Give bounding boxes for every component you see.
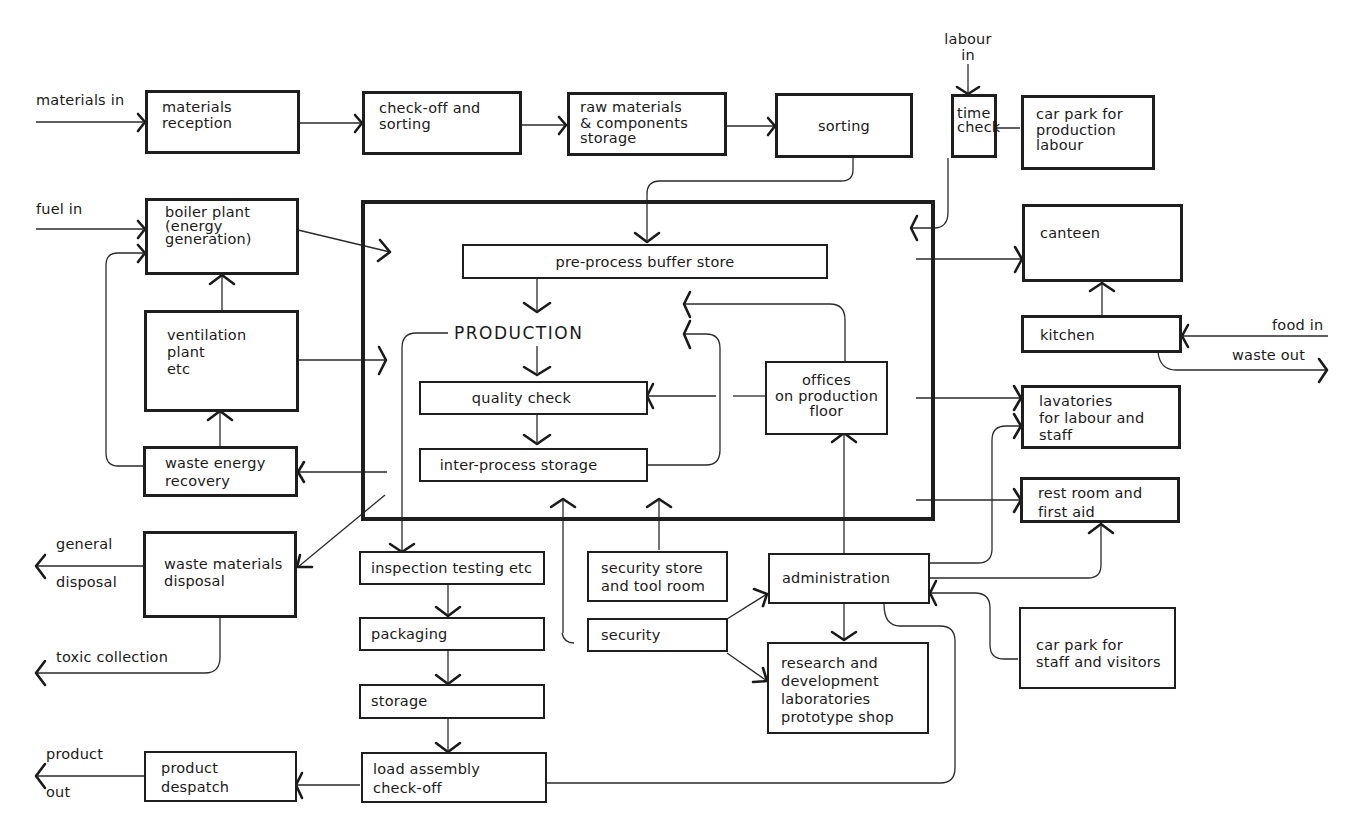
out-label: out bbox=[46, 785, 70, 801]
offices-production-floor-box: offices on production floor bbox=[765, 361, 888, 435]
packaging-box: packaging bbox=[359, 617, 545, 651]
toxic-collection-label: toxic collection bbox=[56, 650, 168, 666]
materials-in-label: materials in bbox=[36, 93, 124, 109]
waste-energy-recovery-box: waste energy recovery bbox=[143, 446, 298, 497]
fuel-in-label: fuel in bbox=[36, 202, 82, 218]
canteen-box: canteen bbox=[1022, 204, 1183, 282]
security-store-box: security store and tool room bbox=[587, 551, 728, 602]
pre-process-buffer-box: pre-process buffer store bbox=[462, 244, 828, 279]
storage-box: storage bbox=[359, 684, 545, 719]
inspection-testing-box: inspection testing etc bbox=[359, 551, 545, 585]
load-assembly-box: load assembly check-off bbox=[361, 752, 547, 803]
inter-process-storage-box: inter-process storage bbox=[419, 448, 648, 482]
raw-materials-storage-box: raw materials & components storage bbox=[567, 92, 727, 156]
product-label: product bbox=[46, 747, 103, 763]
research-development-box: research and development laboratories pr… bbox=[767, 642, 929, 734]
disposal-label: disposal bbox=[56, 575, 117, 591]
administration-box: administration bbox=[768, 553, 930, 604]
sorting-box: sorting bbox=[775, 93, 913, 158]
waste-materials-disposal-box: waste materials disposal bbox=[143, 531, 297, 618]
kitchen-box: kitchen bbox=[1021, 315, 1182, 353]
check-off-sorting-box: check-off and sorting bbox=[362, 91, 522, 155]
car-park-production-box: car park for production labour bbox=[1021, 95, 1155, 170]
factory-flow-diagram: materials in fuel in labour in food in w… bbox=[0, 0, 1360, 834]
time-check-box: time check bbox=[951, 94, 997, 158]
rest-room-box: rest room and first aid bbox=[1020, 477, 1180, 523]
product-despatch-box: product despatch bbox=[144, 751, 297, 802]
general-label: general bbox=[56, 537, 113, 553]
lavatories-box: lavatories for labour and staff bbox=[1021, 385, 1181, 449]
waste-out-label: waste out bbox=[1232, 348, 1305, 364]
labour-in-label: labour in bbox=[940, 32, 996, 63]
car-park-staff-box: car park for staff and visitors bbox=[1019, 607, 1176, 689]
food-in-label: food in bbox=[1272, 318, 1323, 334]
boiler-plant-box: boiler plant (energy generation) bbox=[145, 198, 299, 275]
quality-check-box: quality check bbox=[419, 381, 648, 415]
materials-reception-box: materials reception bbox=[145, 90, 300, 154]
ventilation-plant-box: ventilation plant etc bbox=[144, 310, 299, 412]
production-title: PRODUCTION bbox=[448, 323, 589, 343]
security-box: security bbox=[587, 618, 728, 652]
